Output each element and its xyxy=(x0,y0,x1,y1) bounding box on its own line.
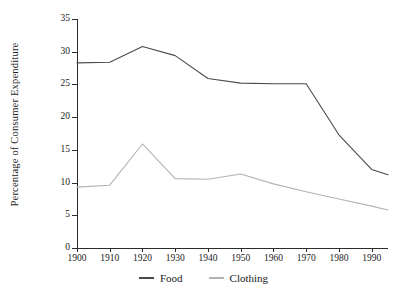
series-line-food xyxy=(77,46,388,174)
series-line-clothing xyxy=(77,144,388,210)
legend-label-clothing: Clothing xyxy=(230,272,269,284)
legend-swatch-clothing xyxy=(209,277,224,278)
plot-lines xyxy=(0,0,407,304)
legend-swatch-food xyxy=(139,277,154,278)
legend-label-food: Food xyxy=(160,272,183,284)
legend-item-food[interactable]: Food xyxy=(139,272,183,284)
chart-legend: Food Clothing xyxy=(0,272,407,284)
legend-item-clothing[interactable]: Clothing xyxy=(209,272,269,284)
chart-figure: Percentage of Consumer Expenditure 05101… xyxy=(0,0,407,304)
